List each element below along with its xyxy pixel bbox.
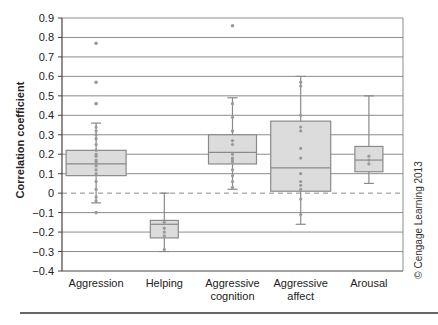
box-aggression [66,42,126,215]
y-tick-label: −0.2 [32,226,54,238]
y-axis-label: Correlation coefficient [14,82,26,199]
y-tick-label: 0.2 [39,148,54,160]
y-tick-label: −0.3 [32,246,54,258]
x-axis-labels: AggressionHelpingAggressivecognitionAggr… [69,277,388,302]
y-tick-label: 0.6 [39,70,54,82]
x-tick-label: Aggression [69,277,124,289]
y-tick-label: 0 [48,187,54,199]
copyright-annotation: © Cengage Learning 2013 [413,161,424,278]
y-tick-label: 0.8 [39,31,54,43]
x-tick-label: Helping [146,277,183,289]
x-tick-label: Aggressiveaffect [273,277,327,302]
y-tick-label: 0.5 [39,90,54,102]
box-plot-chart: 0.90.80.70.60.50.40.30.20.10−0.1−0.2−0.3… [0,0,438,325]
y-tick-label: 0.7 [39,51,54,63]
bottom-divider [20,312,438,314]
outlier-point [94,42,98,46]
box-arousal [355,96,383,184]
y-tick-label: 0.4 [39,109,54,121]
x-tick-label: Aggressivecognition [205,277,259,302]
box-helping [150,193,178,251]
y-axis-ticks: 0.90.80.70.60.50.40.30.20.10−0.1−0.2−0.3… [32,12,62,277]
outlier-point [94,102,98,106]
y-tick-label: 0.9 [39,12,54,24]
box-aggressive-affect [271,76,331,224]
box-aggressive-cognition [209,24,257,189]
outlier-point [94,211,98,215]
outlier-point [94,80,98,84]
outlier-point [231,24,235,28]
boxes [66,24,383,252]
y-tick-label: 0.3 [39,129,54,141]
x-tick-label: Arousal [350,277,387,289]
y-tick-label: −0.4 [32,265,54,277]
y-tick-label: −0.1 [32,207,54,219]
y-tick-label: 0.1 [39,168,54,180]
